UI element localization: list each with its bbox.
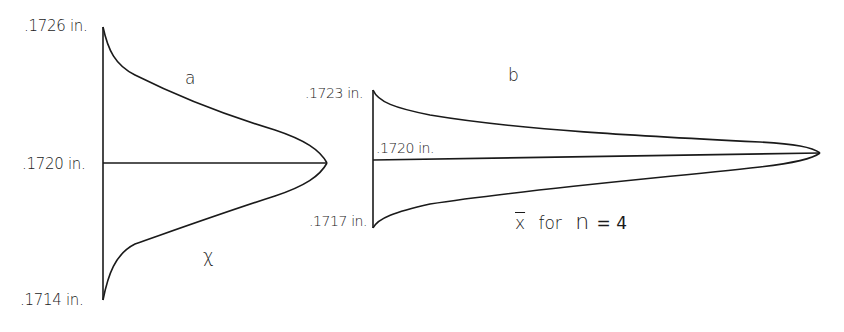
- xbar-symbol: x: [515, 213, 525, 233]
- panel-b-tick-mid: .1720 in.: [376, 141, 434, 155]
- curves-drawing: [0, 0, 844, 332]
- panel-b-mean-line: [373, 153, 820, 160]
- caption-n: n: [575, 209, 589, 234]
- panel-b-tick-bottom: .1717 in.: [309, 214, 367, 228]
- panel-b-upper-curve: [373, 90, 820, 153]
- panel-a-tick-mid: .1720 in.: [22, 157, 85, 172]
- distribution-comparison-figure: .1726 in. .1720 in. .1714 in. a χ b .172…: [0, 0, 844, 332]
- panel-a-tick-top: .1726 in.: [24, 19, 87, 34]
- panel-b-caption: x for n = 4: [515, 211, 627, 233]
- caption-for: for: [538, 213, 561, 233]
- panel-b-letter: b: [508, 67, 519, 84]
- panel-a-letter: a: [185, 70, 195, 87]
- panel-b-tick-top: .1723 in.: [305, 86, 363, 100]
- panel-a-lower-curve: [103, 163, 327, 300]
- caption-eq: = 4: [597, 213, 627, 233]
- panel-b-curve: [373, 90, 820, 228]
- panel-a-tick-bottom: .1714 in.: [20, 293, 83, 308]
- panel-a-upper-curve: [103, 27, 327, 163]
- panel-a-curve: [103, 27, 327, 300]
- panel-a-variable-label: χ: [203, 247, 214, 265]
